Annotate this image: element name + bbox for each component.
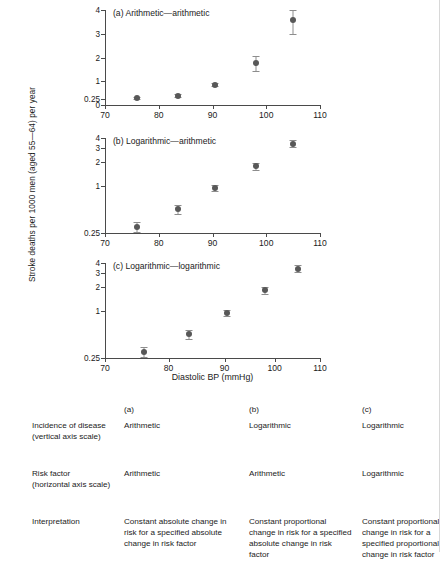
x-tick: [213, 233, 214, 237]
x-tick-label: 110: [313, 238, 327, 248]
table-cell-c: Logarithmic: [362, 468, 440, 479]
x-tick-label: 90: [208, 238, 218, 248]
x-tick-label: 80: [154, 110, 164, 120]
x-tick: [266, 233, 267, 237]
error-bar-cap-lower: [174, 214, 181, 215]
y-tick: [101, 186, 105, 187]
error-bar-cap-lower: [252, 71, 259, 72]
table-row-label-line1: Interpretation: [32, 516, 124, 527]
table-row-label-line1: Risk factor: [32, 468, 124, 479]
y-tick: [101, 263, 105, 264]
y-axis-line: [105, 10, 106, 105]
y-tick: [101, 10, 105, 11]
y-tick: [101, 162, 105, 163]
table-cell-b: Logarithmic: [249, 420, 354, 431]
table-header-cell-b: (b): [249, 404, 354, 415]
data-point-marker: [290, 17, 296, 23]
y-tick-label: 2: [95, 157, 100, 166]
y-tick: [101, 99, 105, 100]
error-bar-cap-lower: [134, 232, 141, 233]
error-bar-cap-lower: [294, 272, 301, 273]
table-cell-a: Arithmetic: [124, 420, 229, 431]
table-cell-a: Constant absolute change in risk for a s…: [124, 516, 229, 549]
data-point-marker: [295, 266, 301, 272]
error-bar-cap-lower: [224, 316, 231, 317]
x-tick: [320, 358, 321, 362]
panel-title-b: (b) Logarithmic—arithmetic: [113, 136, 216, 146]
data-point-marker: [141, 349, 147, 355]
panel-title-c: (c) Logarithmic—logarithmic: [113, 261, 220, 271]
y-axis-line: [105, 263, 106, 358]
data-point-marker: [224, 310, 230, 316]
y-tick: [101, 58, 105, 59]
x-tick-label: 100: [259, 110, 273, 120]
error-bar-cap-lower: [290, 147, 297, 148]
y-tick-label: 2: [95, 282, 100, 291]
x-tick-label: 70: [100, 238, 110, 248]
y-tick: [101, 34, 105, 35]
table-row-label: Risk factor(horizontal axis scale): [32, 468, 124, 490]
x-tick: [213, 105, 214, 109]
data-point-marker: [134, 224, 140, 230]
x-tick: [159, 233, 160, 237]
error-bar-cap-lower: [290, 34, 297, 35]
y-tick-label: 1: [95, 181, 100, 190]
data-point-marker: [186, 331, 192, 337]
table-cell-c: Logarithmic: [362, 420, 440, 431]
y-tick-label: 0.25: [84, 229, 100, 238]
x-axis-line: [105, 358, 320, 359]
figure-stroke-deaths-vs-diastolic-bp: Stroke deaths per 1000 men (aged 55—64) …: [0, 0, 440, 398]
table-header-cell-a: (a): [124, 404, 229, 415]
panel-a: 00.251234708090100110(a) Arithmetic—arit…: [0, 0, 440, 124]
x-tick: [105, 233, 106, 237]
y-tick: [101, 273, 105, 274]
x-tick: [266, 105, 267, 109]
error-bar-cap-lower: [262, 294, 269, 295]
x-tick: [105, 105, 106, 109]
panel-title-a: (a) Arithmetic—arithmetic: [113, 8, 209, 18]
table-cell-b: Arithmetic: [249, 468, 354, 479]
x-tick: [225, 358, 226, 362]
x-tick: [169, 358, 170, 362]
x-tick: [105, 358, 106, 362]
data-point-marker: [290, 141, 296, 147]
table-row-label-line2: (vertical axis scale): [32, 431, 124, 442]
y-tick-label: 4: [95, 259, 100, 268]
x-tick-label: 110: [313, 110, 327, 120]
error-bar-cap-lower: [212, 191, 219, 192]
y-axis-line: [105, 138, 106, 233]
y-tick: [101, 148, 105, 149]
x-tick: [275, 358, 276, 362]
x-tick: [159, 105, 160, 109]
x-axis-label: Diastolic BP (mmHg): [105, 372, 320, 382]
y-tick-label: 4: [95, 6, 100, 15]
panel-b: 0.251234708090100110(b) Logarithmic—arit…: [0, 128, 440, 252]
scale-interpretation-table: (a)(b)(c)Incidence of disease(vertical a…: [0, 404, 440, 552]
plot-area-c: 0.251234708090100110(c) Logarithmic—loga…: [105, 263, 320, 358]
y-tick-label: 1: [95, 306, 100, 315]
y-tick-label: 3: [95, 143, 100, 152]
table-cell-c: Constant proportional change in risk for…: [362, 516, 440, 561]
x-tick-label: 100: [259, 238, 273, 248]
y-tick-label: 0.25: [84, 354, 100, 363]
data-point-marker: [175, 206, 181, 212]
data-point-marker: [262, 287, 268, 293]
x-tick: [320, 105, 321, 109]
y-tick: [101, 138, 105, 139]
y-tick-label: 2: [95, 53, 100, 62]
y-tick: [101, 311, 105, 312]
table-row-label: Incidence of disease(vertical axis scale…: [32, 420, 124, 442]
data-point-marker: [134, 95, 140, 101]
y-tick-label: 3: [95, 268, 100, 277]
data-point-marker: [253, 163, 259, 169]
x-tick-label: 80: [154, 238, 164, 248]
y-tick: [101, 81, 105, 82]
error-bar-cap-upper: [252, 56, 259, 57]
page-edge: [439, 0, 440, 552]
data-point-marker: [175, 93, 181, 99]
table-row-label-line1: Incidence of disease: [32, 420, 124, 431]
error-bar-cap-lower: [185, 339, 192, 340]
y-tick: [101, 287, 105, 288]
panel-c: 0.251234708090100110(c) Logarithmic—loga…: [0, 253, 440, 377]
data-point-marker: [212, 82, 218, 88]
